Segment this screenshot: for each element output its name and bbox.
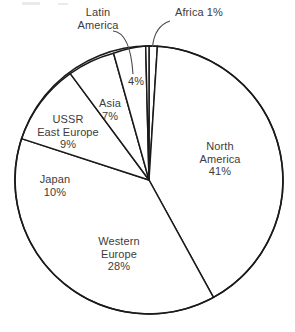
slice-label-africa-text: Africa 1%	[175, 6, 223, 18]
pie-chart: North America 41% Western Europe 28% Jap…	[0, 0, 295, 332]
slice-label-north-america-line1: North	[183, 140, 257, 153]
slice-label-asia-line1: Asia	[84, 97, 136, 110]
slice-value-ussr-east-europe: 9%	[18, 138, 118, 151]
slice-label-japan: Japan 10%	[24, 173, 86, 198]
slice-value-latin-america: 4%	[122, 75, 150, 88]
slice-value-asia: 7%	[84, 110, 136, 123]
slice-label-north-america-line2: America	[183, 153, 257, 166]
slice-label-latin-america: Latin America	[62, 6, 134, 31]
leader-line-africa	[153, 21, 171, 47]
slice-label-africa: Africa 1%	[175, 6, 255, 19]
slice-value-north-america: 41%	[183, 165, 257, 178]
slice-label-western-europe-line2: Europe	[82, 248, 156, 261]
slice-label-north-america: North America 41%	[183, 140, 257, 178]
slice-label-latin-america-line2: America	[62, 19, 134, 32]
slice-label-japan-line1: Japan	[24, 173, 86, 186]
slice-value-japan: 10%	[24, 186, 86, 199]
slice-value-latin-america-text: 4%	[122, 75, 150, 88]
slice-label-asia: Asia 7%	[84, 97, 136, 122]
slice-label-ussr-line2: East Europe	[18, 126, 118, 139]
slice-label-latin-america-line1: Latin	[62, 6, 134, 19]
slice-label-western-europe: Western Europe 28%	[82, 235, 156, 273]
slice-label-western-europe-line1: Western	[82, 235, 156, 248]
slice-value-western-europe: 28%	[82, 260, 156, 273]
